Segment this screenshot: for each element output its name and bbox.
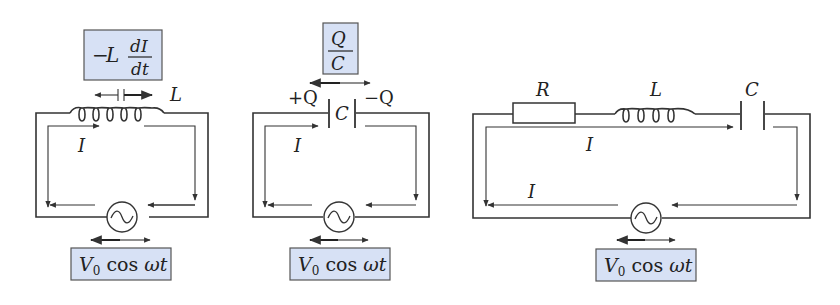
ac-source-icon (631, 203, 661, 233)
ac-source-icon (107, 202, 137, 232)
capacitor-voltage-box: Q C (323, 23, 358, 74)
svg-text:dt: dt (131, 59, 149, 79)
plus-charge-label: +Q (288, 87, 318, 108)
svg-text:C: C (331, 53, 345, 74)
svg-text:Q: Q (331, 28, 346, 49)
resistor-icon (513, 103, 575, 123)
svg-text:V0 cos ωt: V0 cos ωt (604, 254, 693, 279)
svg-text:dI: dI (130, 36, 148, 56)
current-label: I (293, 135, 302, 156)
inductor-circuit: − L dI dt L I (36, 30, 208, 280)
svg-text:V0 cos ωt: V0 cos ωt (79, 253, 168, 278)
svg-text:L: L (105, 43, 119, 67)
ac-source-icon (324, 202, 354, 232)
inductor-source-label: V0 cos ωt (71, 248, 171, 280)
capacitor-label: C (745, 79, 759, 100)
capacitor-circuit: Q C +Q −Q C I V0 cos ωt (253, 23, 429, 280)
svg-text:V0 cos ωt: V0 cos ωt (298, 253, 387, 278)
inductor-voltage-arrow (95, 89, 152, 101)
capacitor-source-label: V0 cos ωt (290, 248, 390, 280)
capacitor-label: C (335, 103, 349, 124)
resistor-label: R (535, 79, 550, 100)
inductor-voltage-box: − L dI dt (84, 30, 162, 80)
inductor-coil-icon (70, 108, 164, 121)
rlc-circuit: R L C I I V0 cos ωt (473, 79, 810, 281)
current-label-bottom: I (527, 181, 536, 202)
inductor-label: L (649, 79, 662, 100)
inductor-coil-icon (615, 109, 695, 122)
rlc-source-label: V0 cos ωt (596, 249, 696, 281)
current-label-top: I (585, 134, 594, 155)
capacitor-icon (741, 101, 764, 130)
current-label: I (77, 135, 86, 156)
inductor-label: L (169, 84, 182, 105)
minus-charge-label: −Q (364, 87, 394, 108)
